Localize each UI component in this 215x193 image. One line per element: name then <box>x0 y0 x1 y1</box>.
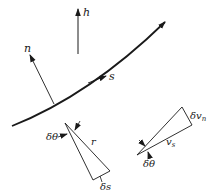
r-label: r <box>91 136 97 147</box>
n-label: n <box>24 42 31 55</box>
right-triangle: δvn vs δθ <box>137 107 207 169</box>
right-angle-label: δθ <box>143 158 155 169</box>
delta-s-label: δs <box>100 181 111 192</box>
left-angle-label: δθ <box>46 131 58 142</box>
diagram-svg: h n s δθ r δs δvn vs δθ <box>0 0 215 193</box>
s-arrow <box>88 76 106 83</box>
h-label: h <box>83 6 90 19</box>
delta-v-n-label: δvn <box>190 110 207 123</box>
streamline-curve <box>12 22 165 126</box>
n-arrow <box>30 55 54 104</box>
left-triangle: δθ r δs <box>46 121 111 192</box>
v-s-label: vs <box>166 136 176 149</box>
streamline-geometry-diagram: h n s δθ r δs δvn vs δθ <box>0 0 215 193</box>
s-label: s <box>109 70 115 83</box>
